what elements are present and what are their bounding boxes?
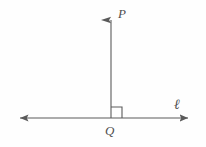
point-label-p: P [118, 7, 126, 20]
right-angle-square [111, 107, 122, 118]
geometry-figure: P Q ℓ [0, 0, 206, 147]
line-label-ell: ℓ [174, 97, 180, 111]
geometry-canvas [0, 0, 206, 147]
point-label-q: Q [105, 124, 114, 137]
